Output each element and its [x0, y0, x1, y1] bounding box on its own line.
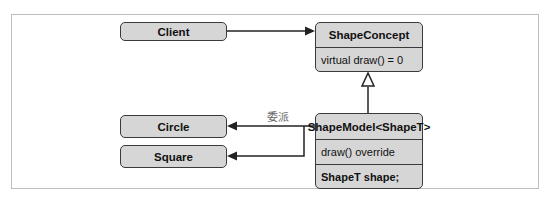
arrowhead-icon	[305, 27, 315, 36]
client-label: Client	[158, 26, 190, 38]
shape-model-member-draw: draw() override	[316, 140, 422, 165]
client-box: Client	[120, 22, 227, 41]
shape-model-member-shape: ShapeT shape;	[316, 165, 422, 188]
shape-concept-member: virtual draw() = 0	[316, 48, 422, 71]
circle-box: Circle	[120, 115, 227, 138]
arrowhead-icon	[227, 152, 237, 161]
shape-concept-box: ShapeConcept virtual draw() = 0	[315, 22, 423, 72]
shape-model-title: ShapeModel<ShapeT>	[316, 114, 422, 140]
shape-model-box: ShapeModel<ShapeT> draw() override Shape…	[315, 113, 423, 189]
square-box: Square	[120, 145, 227, 168]
circle-label: Circle	[158, 121, 190, 133]
square-label: Square	[154, 151, 193, 163]
delegation-label: 委派	[267, 108, 289, 124]
arrowhead-icon	[227, 122, 237, 131]
connectors	[0, 0, 551, 205]
shape-concept-title: ShapeConcept	[316, 23, 422, 48]
inheritance-triangle-icon	[362, 73, 374, 86]
